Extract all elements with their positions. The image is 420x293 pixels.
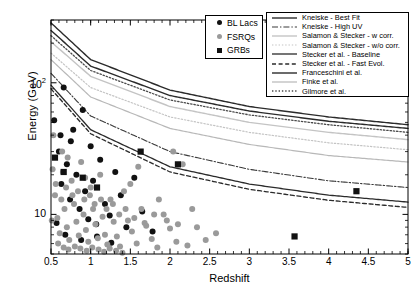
points-fsrqs <box>84 248 90 254</box>
x-axis-label: Redshift <box>51 272 408 284</box>
points-bl-lacs <box>58 132 64 138</box>
points-bl-lacs <box>80 107 86 113</box>
points-bl-lacs <box>85 216 91 222</box>
x-tick-label: 1 <box>71 256 111 267</box>
x-tick-label: 3.5 <box>269 256 309 267</box>
points-bl-lacs <box>90 178 96 184</box>
points-fsrqs <box>75 188 81 194</box>
points-fsrqs <box>131 215 137 221</box>
x-tick-label: 1.5 <box>110 256 150 267</box>
points-fsrqs <box>170 149 176 155</box>
points-fsrqs <box>76 233 82 239</box>
points-bl-lacs <box>61 85 67 91</box>
points-fsrqs <box>184 243 190 249</box>
points-fsrqs <box>110 201 116 207</box>
points-fsrqs <box>88 185 94 191</box>
curve-legend-item: Salamon & Stecker - w/o corr. <box>267 41 408 50</box>
points-fsrqs <box>161 211 167 217</box>
points-fsrqs <box>57 230 63 236</box>
points-fsrqs <box>81 196 87 202</box>
bl-lac-marker-icon <box>211 20 227 25</box>
curve-legend-swatch-icon <box>271 14 298 22</box>
points-fsrqs <box>149 236 155 242</box>
points-fsrqs <box>142 220 148 226</box>
points-fsrqs <box>59 149 65 155</box>
points-fsrqs <box>111 219 117 225</box>
points-fsrqs <box>138 206 144 212</box>
points-fsrqs <box>92 221 98 227</box>
x-tick-label: 4.5 <box>348 256 388 267</box>
points-fsrqs <box>151 211 157 217</box>
points-fsrqs <box>114 233 120 239</box>
points-fsrqs <box>71 201 77 207</box>
points-fsrqs <box>81 211 87 217</box>
points-grbs <box>175 161 181 167</box>
points-fsrqs <box>135 164 141 170</box>
points-fsrqs <box>164 217 170 223</box>
curve-legend-item: Kneiske - High UV <box>267 22 408 31</box>
curve-legend-item: Stecker et al. - Baseline <box>267 50 408 59</box>
points-fsrqs <box>97 172 103 178</box>
curve-legend-item: Salamon & Stecker - w corr. <box>267 31 408 40</box>
curve-legend: Kneiske - Best FitKneiske - High UVSalam… <box>266 12 409 97</box>
points-bl-lacs <box>112 169 118 175</box>
points-bl-lacs <box>107 213 113 219</box>
marker-legend-label: GRBs <box>227 45 250 55</box>
points-fsrqs <box>125 217 131 223</box>
curve-legend-label: Finke et al. <box>302 77 338 86</box>
points-fsrqs <box>92 201 98 207</box>
points-fsrqs <box>55 241 61 247</box>
curve-legend-swatch-icon <box>271 32 298 40</box>
points-bl-lacs <box>150 229 156 235</box>
points-fsrqs <box>167 226 173 232</box>
points-bl-lacs <box>88 143 94 149</box>
points-fsrqs <box>194 224 200 230</box>
points-fsrqs <box>154 245 160 251</box>
points-bl-lacs <box>70 127 76 133</box>
points-fsrqs <box>173 239 179 245</box>
curve-legend-item: Finke et al. <box>267 77 408 86</box>
points-fsrqs <box>77 246 83 252</box>
figure: Energy (GeV) Redshift 10102 0.511.522.53… <box>0 0 420 293</box>
marker-legend-label: FSRQs <box>227 32 255 42</box>
points-fsrqs <box>65 155 71 161</box>
points-fsrqs <box>116 211 122 217</box>
points-fsrqs <box>134 241 140 247</box>
curve-legend-label: Gilmore et al. <box>302 87 346 96</box>
y-axis-label: Energy (GeV) <box>26 51 38 161</box>
fsrq-marker-icon <box>211 34 227 39</box>
points-grbs <box>353 188 359 194</box>
points-fsrqs <box>61 206 67 212</box>
curve-legend-item: Stecker et al. - Fast Evol. <box>267 59 408 68</box>
curve-legend-swatch-icon <box>271 50 298 58</box>
points-fsrqs <box>83 227 89 233</box>
points-fsrqs <box>104 206 110 212</box>
x-tick-label: 4 <box>309 256 349 267</box>
curve-legend-item: Gilmore et al. <box>267 87 408 96</box>
curve-legend-label: Salamon & Stecker - w corr. <box>302 31 394 40</box>
points-bl-lacs <box>82 188 88 194</box>
points-fsrqs <box>102 232 108 238</box>
curve-legend-label: Franceschini et al. <box>302 68 362 77</box>
points-fsrqs <box>113 248 119 254</box>
x-tick-label: 5 <box>388 256 420 267</box>
curve-legend-swatch-icon <box>271 41 298 49</box>
points-grbs <box>291 233 297 239</box>
points-fsrqs <box>69 192 75 198</box>
x-tick-label: 0.5 <box>31 256 71 267</box>
points-fsrqs <box>50 166 56 172</box>
curve-legend-item: Kneiske - Best Fit <box>267 13 408 22</box>
points-bl-lacs <box>123 224 129 230</box>
points-fsrqs <box>78 159 84 165</box>
points-grbs <box>138 149 144 155</box>
y-tick-label: 10 <box>8 207 46 219</box>
points-fsrqs <box>65 247 71 253</box>
marker-legend-item: FSRQs <box>206 30 262 44</box>
points-fsrqs <box>156 196 162 202</box>
points-bl-lacs <box>73 172 79 178</box>
points-fsrqs <box>203 237 209 243</box>
points-fsrqs <box>73 219 79 225</box>
y-tick-label: 102 <box>8 76 46 90</box>
points-fsrqs <box>107 246 113 252</box>
points-fsrqs <box>100 214 106 220</box>
